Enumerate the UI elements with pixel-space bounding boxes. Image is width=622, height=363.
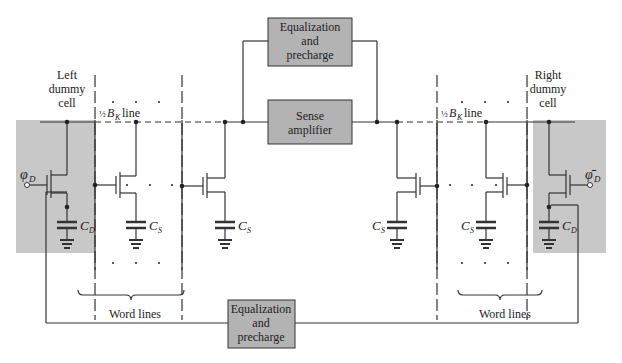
sense-amplifier-block: Sense amplifier <box>268 100 352 144</box>
phi-d-label: φ <box>20 167 28 182</box>
right-dummy-label-1: Right <box>535 68 562 82</box>
svg-text:D: D <box>28 174 36 184</box>
svg-text:line: line <box>464 106 482 120</box>
cs-label-1: C <box>149 218 158 233</box>
left-dummy-label-1: Left <box>57 68 78 82</box>
svg-text:K: K <box>456 113 463 122</box>
svg-text:S: S <box>247 226 251 235</box>
svg-text:Equalization: Equalization <box>280 20 341 34</box>
svg-text:line: line <box>122 106 140 120</box>
svg-text:S: S <box>381 226 385 235</box>
svg-text:and: and <box>252 316 269 330</box>
cd-right-label: C <box>562 218 571 233</box>
svg-text:K: K <box>114 113 121 122</box>
svg-text:S: S <box>470 226 474 235</box>
right-dummy-label-2: dummy <box>530 82 567 96</box>
diagram-canvas: Equalization and precharge Sense amplifi… <box>0 0 622 363</box>
svg-text:½: ½ <box>441 109 448 119</box>
svg-text:B: B <box>107 106 115 120</box>
left-dummy-label-3: cell <box>58 96 76 110</box>
svg-text:Equalization: Equalization <box>231 302 292 316</box>
phi-d-bar-terminal <box>588 183 593 188</box>
eq-precharge-bottom-block: Equalization and precharge <box>228 300 295 348</box>
svg-text:D: D <box>593 174 601 184</box>
svg-text:amplifier: amplifier <box>288 123 332 137</box>
svg-text:S: S <box>158 226 162 235</box>
cs-label-4: C <box>461 218 470 233</box>
svg-text:D: D <box>570 226 577 235</box>
svg-text:and: and <box>301 34 318 48</box>
svg-text:B: B <box>449 106 457 120</box>
cs-label-3: C <box>372 218 381 233</box>
word-lines-left-label: Word lines <box>109 307 161 321</box>
svg-text:½: ½ <box>99 109 106 119</box>
svg-text:Sense: Sense <box>296 109 324 123</box>
cd-left-label: C <box>80 218 89 233</box>
svg-text:D: D <box>88 226 95 235</box>
svg-text:precharge: precharge <box>286 48 333 62</box>
circuit-diagram: Equalization and precharge Sense amplifi… <box>0 0 622 363</box>
word-lines-right-label: Word lines <box>479 307 531 321</box>
left-dummy-label-2: dummy <box>49 82 86 96</box>
svg-text:precharge: precharge <box>237 330 284 344</box>
eq-precharge-top-block: Equalization and precharge <box>268 18 352 66</box>
right-dummy-label-3: cell <box>539 96 557 110</box>
cs-label-2: C <box>238 218 247 233</box>
